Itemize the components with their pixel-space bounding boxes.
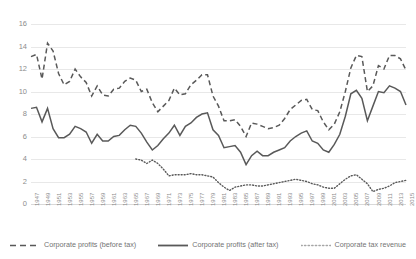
y-axis-tick-label: 10	[5, 88, 27, 96]
x-axis-tick-label: 2003	[342, 193, 348, 206]
x-axis-tick-label: 2013	[398, 193, 404, 206]
y-axis-tick-label: 0	[5, 200, 27, 208]
x-axis-tick-label: 2005	[353, 193, 359, 206]
x-axis-tick-label: 1953	[67, 193, 73, 206]
legend-item-before-tax[interactable]: Corporate profits (before tax)	[10, 241, 136, 249]
x-axis-tick-label: 1977	[199, 193, 205, 206]
y-axis-tick-label: 16	[5, 20, 27, 28]
x-axis-tick-label: 1949	[45, 193, 51, 206]
legend-item-tax-revenue[interactable]: Corporate tax revenue	[301, 241, 407, 249]
y-axis-tick-label: 8	[5, 110, 27, 118]
y-axis-tick-label: 6	[5, 133, 27, 141]
legend-swatch-dotted-icon	[301, 242, 331, 249]
x-axis-tick-label: 1967	[144, 193, 150, 206]
x-axis-tick-label: 1979	[210, 193, 216, 206]
x-axis-ticks: 1947194919511953195519571959196119631965…	[31, 206, 406, 234]
x-axis-tick-label: 1973	[177, 193, 183, 206]
x-axis-tick-label: 1961	[111, 193, 117, 206]
series-line-1	[31, 86, 406, 165]
x-axis-tick-label: 1955	[78, 193, 84, 206]
y-axis-tick-label: 4	[5, 155, 27, 163]
x-axis-tick-label: 2009	[376, 193, 382, 206]
x-axis-tick-label: 2015	[409, 193, 415, 206]
legend-item-after-tax[interactable]: Corporate profits (after tax)	[158, 241, 278, 249]
y-axis-tick-label: 2	[5, 178, 27, 186]
x-axis-tick-label: 1997	[309, 193, 315, 206]
x-axis-tick-label: 1987	[254, 193, 260, 206]
plot-area	[31, 24, 406, 204]
legend-label-tax-revenue: Corporate tax revenue	[335, 241, 407, 249]
x-axis-line	[31, 204, 406, 205]
x-axis-tick-label: 2001	[331, 193, 337, 206]
series-line-0	[31, 43, 406, 136]
x-axis-tick-label: 1951	[56, 193, 62, 206]
y-axis-tick-label: 12	[5, 65, 27, 73]
x-axis-tick-label: 1969	[155, 193, 161, 206]
chart-container: 1614121086420 19471949195119531955195719…	[0, 0, 416, 259]
series-line-2	[136, 159, 406, 192]
series-lines	[31, 24, 406, 204]
x-axis-tick-label: 1989	[265, 193, 271, 206]
x-axis-tick-label: 1981	[221, 193, 227, 206]
legend-swatch-dashed-icon	[10, 242, 40, 249]
x-axis-tick-label: 1999	[320, 193, 326, 206]
x-axis-tick-label: 1959	[100, 193, 106, 206]
x-axis-tick-label: 1985	[243, 193, 249, 206]
chart-legend: Corporate profits (before tax) Corporate…	[0, 236, 416, 254]
x-axis-tick-label: 2011	[387, 193, 393, 206]
x-axis-tick-label: 2007	[364, 193, 370, 206]
x-axis-tick-label: 1983	[232, 193, 238, 206]
y-axis-tick-label: 14	[5, 43, 27, 51]
x-axis-tick-label: 1993	[287, 193, 293, 206]
x-axis-tick-label: 1947	[34, 193, 40, 206]
x-axis-tick-label: 1957	[89, 193, 95, 206]
x-axis-tick-label: 1971	[166, 193, 172, 206]
x-axis-tick-label: 1975	[188, 193, 194, 206]
x-axis-tick-label: 1995	[298, 193, 304, 206]
x-axis-tick-label: 1965	[133, 193, 139, 206]
legend-label-before-tax: Corporate profits (before tax)	[44, 241, 136, 249]
legend-swatch-solid-icon	[158, 242, 188, 249]
legend-label-after-tax: Corporate profits (after tax)	[192, 241, 278, 249]
x-axis-tick-label: 1991	[276, 193, 282, 206]
x-axis-tick-label: 1963	[122, 193, 128, 206]
